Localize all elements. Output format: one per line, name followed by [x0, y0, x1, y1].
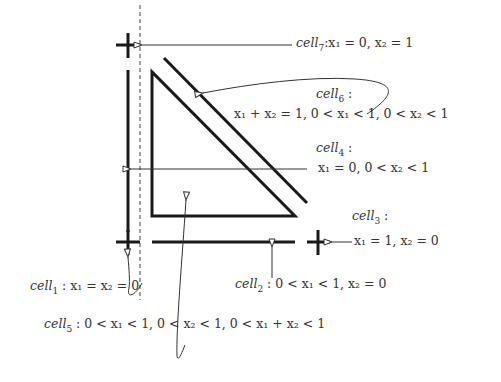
- cell5-label: cell5 : 0 < x₁ < 1, 0 < x₂ < 1, 0 < x₁ +…: [44, 318, 325, 334]
- cell7-point-cross: [116, 33, 140, 58]
- cell6-edge: [164, 58, 307, 203]
- cell4-label-head: cell4 :: [316, 142, 352, 158]
- cell4-label-desc: x₁ = 0, 0 < x₂ < 1: [318, 162, 429, 175]
- cell6-label-head: cell6 :: [316, 88, 352, 104]
- cell5-arrow: [177, 200, 186, 358]
- cell6-label-desc: x₁ + x₂ = 1, 0 < x₁ < 1, 0 < x₂ < 1: [234, 108, 448, 121]
- cell1-label: cell1 : x₁ = x₂ = 0: [30, 280, 139, 296]
- cell3-label-desc: x₁ = 1, x₂ = 0: [354, 235, 439, 248]
- cell1-point-cross: [116, 230, 140, 255]
- cell3-label-head: cell3 :: [352, 210, 388, 226]
- cell5-triangle: [152, 72, 295, 216]
- cell7-label: cell7:x₁ = 0, x₂ = 1: [296, 37, 413, 53]
- cell3-point-cross: [307, 230, 330, 255]
- cell2-label: cell2 : 0 < x₁ < 1, x₂ = 0: [235, 278, 387, 294]
